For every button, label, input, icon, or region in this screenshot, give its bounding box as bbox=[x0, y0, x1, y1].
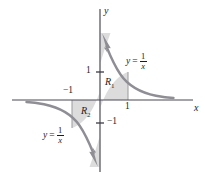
region-label-r2: R2 bbox=[81, 106, 91, 119]
equation-lower-denominator: x bbox=[57, 136, 63, 145]
equation-upper-numerator: 1 bbox=[140, 52, 146, 61]
x-tick-label-positive-one: 1 bbox=[125, 102, 130, 112]
equation-upper-equals-sign: = bbox=[132, 57, 137, 67]
equation-lower-lhs: y bbox=[43, 131, 47, 141]
y-axis-label: y bbox=[104, 6, 108, 16]
equation-upper-denominator: x bbox=[140, 62, 146, 71]
graph-canvas bbox=[0, 0, 205, 181]
equation-label-upper-branch: y = 1 x bbox=[126, 52, 147, 72]
equation-lower-numerator: 1 bbox=[57, 126, 63, 135]
equation-lower-fraction: 1 x bbox=[57, 126, 64, 146]
x-axis-label: x bbox=[194, 103, 198, 113]
equation-upper-fraction: 1 x bbox=[140, 52, 147, 72]
region-label-r1-subscript: 1 bbox=[111, 82, 115, 90]
y-tick-label-negative-one: −1 bbox=[107, 117, 117, 127]
y-tick-label-positive-one: 1 bbox=[86, 66, 91, 76]
equation-label-lower-branch: y = 1 x bbox=[43, 126, 64, 146]
region-label-r1: R1 bbox=[105, 77, 115, 90]
x-tick-label-negative-one: −1 bbox=[63, 86, 73, 96]
equation-lower-equals-sign: = bbox=[49, 131, 54, 141]
figure-container: y x 1 −1 1 −1 R1 R2 y = 1 x y = 1 x bbox=[0, 0, 205, 181]
equation-upper-lhs: y bbox=[126, 57, 130, 67]
region-label-r2-subscript: 2 bbox=[87, 111, 91, 119]
